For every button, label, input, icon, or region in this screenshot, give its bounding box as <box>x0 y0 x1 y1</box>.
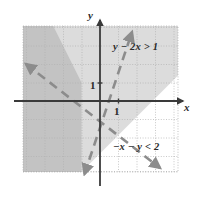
x-axis-tick-label: 1 <box>114 106 120 117</box>
inequality-label-2: −x − y < 2 <box>113 142 159 153</box>
x-axis-label: x <box>184 102 190 113</box>
inequality-label-1: y − 2x > 1 <box>113 42 158 53</box>
y-axis-label: y <box>88 10 93 21</box>
y-axis-tick-label: 1 <box>90 80 96 91</box>
math-figure: y − 2x > 1 −x − y < 2 y x 1 1 <box>0 0 201 198</box>
coordinate-plane-graphic <box>0 0 201 198</box>
